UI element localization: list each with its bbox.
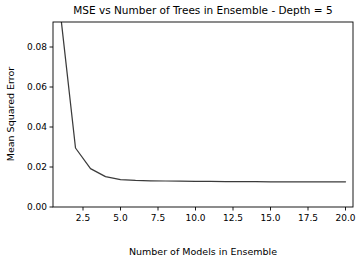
x-tick-label: 5.0 [113,213,128,223]
x-tick-label: 17.5 [298,213,318,223]
x-tick-label: 15.0 [260,213,280,223]
x-axis-label: Number of Models in Ensemble [129,246,277,257]
y-tick-label: 0.02 [27,162,47,172]
y-tick-label: 0.06 [27,82,47,92]
chart-title: MSE vs Number of Trees in Ensemble - Dep… [73,4,332,16]
chart-figure: MSE vs Number of Trees in Ensemble - Dep… [0,0,362,262]
y-axis-label: Mean Squared Error [5,67,16,162]
y-tick-label: 0.08 [27,42,47,52]
x-tick-label: 2.5 [76,213,90,223]
x-tick-label: 7.5 [151,213,165,223]
chart-canvas: MSE vs Number of Trees in Ensemble - Dep… [0,0,362,262]
y-tick-label: 0.04 [27,122,47,132]
x-tick-label: 20.0 [335,213,355,223]
x-tick-label: 10.0 [185,213,205,223]
y-tick-label: 0.00 [27,202,47,212]
x-tick-label: 12.5 [223,213,243,223]
